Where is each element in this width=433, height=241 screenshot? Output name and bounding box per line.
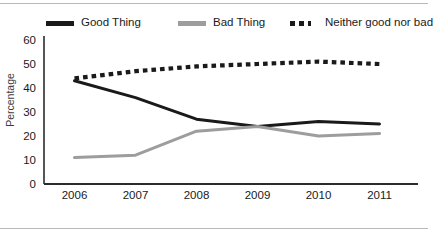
plot-area: Percentage 6050403020100 200620072008200… xyxy=(0,34,428,224)
legend-item-neither-good-nor-bad: Neither good nor bad xyxy=(290,12,433,34)
legend-swatch-neither-icon xyxy=(290,21,318,26)
series-line-neither-good-nor-bad xyxy=(75,62,380,79)
legend-swatch-good-thing-icon xyxy=(46,21,74,26)
legend-label-good-thing: Good Thing xyxy=(81,17,141,29)
bottom-divider xyxy=(0,228,428,229)
legend-item-bad-thing: Bad Thing xyxy=(178,12,265,34)
top-divider xyxy=(0,3,428,4)
legend-label-neither-good-nor-bad: Neither good nor bad xyxy=(325,17,433,29)
chart-legend: Good Thing Bad Thing Neither good nor ba… xyxy=(0,12,428,34)
series-line-good-thing xyxy=(75,81,380,127)
chart-canvas xyxy=(0,34,428,224)
legend-label-bad-thing: Bad Thing xyxy=(213,17,265,29)
legend-item-good-thing: Good Thing xyxy=(46,12,141,34)
series-line-bad-thing xyxy=(75,126,380,157)
legend-swatch-bad-thing-icon xyxy=(178,21,206,26)
